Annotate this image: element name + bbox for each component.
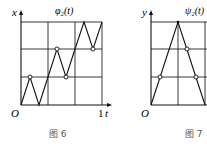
apex-point — [177, 21, 180, 24]
fig7-function-label: ψ₂(t) — [185, 5, 204, 16]
curve-phi2 — [21, 22, 102, 105]
figures-canvas — [0, 0, 207, 147]
y-axis-arrow-icon — [149, 10, 153, 15]
y-axis-arrow-icon — [19, 10, 23, 15]
fig6-y-axis-label: x — [12, 6, 17, 18]
fig7-caption: 图 7 — [185, 127, 203, 140]
figure-6 — [19, 10, 112, 107]
grid-fig7 — [151, 22, 207, 105]
fig7-origin-label: O — [141, 107, 149, 119]
fig6-caption: 图 6 — [49, 127, 67, 140]
figure-7 — [149, 10, 207, 105]
fig6-x-end-label: 1 — [98, 107, 104, 119]
fig6-x-axis-label: t — [105, 107, 108, 119]
fig6-function-label: φ₂(t) — [55, 5, 73, 16]
fig6-origin-label: O — [11, 107, 19, 119]
fig7-y-axis-label: y — [142, 6, 147, 18]
